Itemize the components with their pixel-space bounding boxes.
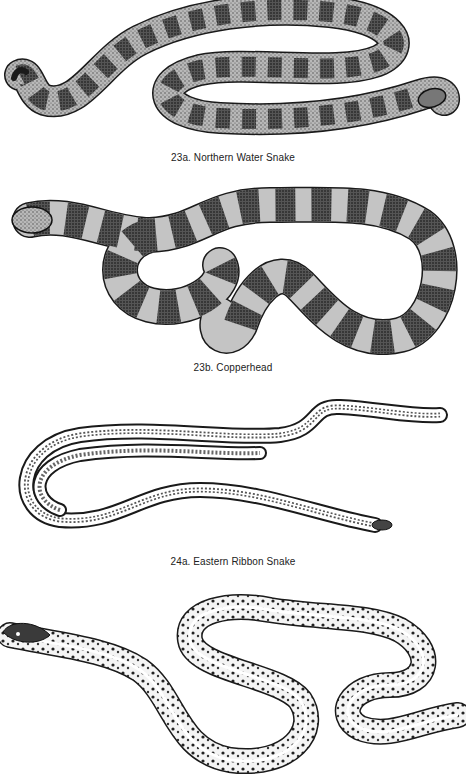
garter-snake-illustration [0, 590, 466, 784]
caption-northern-water-snake: 23a. Northern Water Snake [0, 152, 466, 163]
caption-copperhead: 23b. Copperhead [0, 362, 466, 373]
copperhead-illustration [0, 175, 466, 355]
northern-water-snake-illustration [0, 0, 466, 145]
caption-eastern-ribbon-snake: 24a. Eastern Ribbon Snake [0, 556, 466, 567]
eastern-ribbon-snake-illustration [0, 395, 466, 545]
plate-copperhead [0, 175, 466, 355]
plate-northern-water-snake [0, 0, 466, 145]
plate-garter-snake [0, 590, 466, 784]
plate-eastern-ribbon-snake [0, 395, 466, 545]
